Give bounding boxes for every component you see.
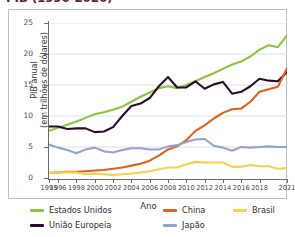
legend-swatch-icon bbox=[163, 209, 177, 212]
y-axis-label: PIB anual (em trilhões de dólares) bbox=[30, 5, 50, 155]
legend-label: União Europeia bbox=[49, 220, 111, 230]
x-tick-label: 2004 bbox=[123, 184, 140, 192]
x-tick-mark bbox=[95, 180, 96, 183]
x-tick-label: 2008 bbox=[160, 184, 177, 192]
line-chart-svg bbox=[49, 23, 287, 178]
legend-label: Brasil bbox=[252, 205, 275, 215]
chart-page: PIB (1990-2020) PIB anual (em trilhões d… bbox=[0, 0, 295, 237]
x-tick-mark bbox=[260, 180, 261, 183]
series-line bbox=[49, 139, 287, 153]
legend-swatch-icon bbox=[233, 209, 247, 212]
x-tick-mark bbox=[113, 180, 114, 183]
x-tick-label: 1996 bbox=[50, 184, 67, 192]
y-tick-mark bbox=[44, 85, 48, 86]
x-tick-label: 2002 bbox=[105, 184, 122, 192]
x-tick-label: 2010 bbox=[178, 184, 195, 192]
legend-item: Brasil bbox=[233, 205, 275, 215]
series-line bbox=[49, 35, 287, 130]
series-line bbox=[49, 162, 287, 175]
x-tick-mark bbox=[186, 180, 187, 183]
chart-frame: PIB anual (em trilhões de dólares) 05101… bbox=[8, 9, 287, 199]
y-tick-mark bbox=[44, 54, 48, 55]
x-tick-mark bbox=[287, 180, 288, 183]
x-tick-label: 2000 bbox=[86, 184, 103, 192]
x-tick-label: 2014 bbox=[215, 184, 232, 192]
x-tick-mark bbox=[223, 180, 224, 183]
legend-label: Estados Unidos bbox=[49, 205, 112, 215]
y-tick-mark bbox=[44, 178, 48, 179]
x-tick-label: 2016 bbox=[233, 184, 250, 192]
x-tick-mark bbox=[76, 180, 77, 183]
legend-item: União Europeia bbox=[30, 220, 111, 230]
x-tick-mark bbox=[49, 180, 50, 183]
legend-item: China bbox=[163, 205, 205, 215]
legend-swatch-icon bbox=[30, 224, 44, 227]
plot-area bbox=[49, 23, 287, 178]
y-tick-label: 5 bbox=[11, 142, 33, 151]
x-tick-label: 2018 bbox=[251, 184, 268, 192]
x-tick-mark bbox=[150, 180, 151, 183]
legend-label: China bbox=[182, 205, 205, 215]
x-tick-mark bbox=[241, 180, 242, 183]
x-tick-label: 2012 bbox=[196, 184, 213, 192]
y-tick-label: 20 bbox=[11, 49, 33, 58]
y-tick-label: 25 bbox=[11, 18, 33, 27]
legend-swatch-icon bbox=[30, 209, 44, 212]
x-tick-mark bbox=[58, 180, 59, 183]
legend-item: Estados Unidos bbox=[30, 205, 112, 215]
x-tick-label: 1998 bbox=[68, 184, 85, 192]
x-tick-mark bbox=[131, 180, 132, 183]
x-tick-mark bbox=[168, 180, 169, 183]
x-tick-mark bbox=[205, 180, 206, 183]
legend-item: Japão bbox=[163, 220, 205, 230]
page-title: PIB (1990-2020) bbox=[6, 0, 112, 5]
y-tick-mark bbox=[44, 23, 48, 24]
y-tick-mark bbox=[44, 147, 48, 148]
y-tick-label: 10 bbox=[11, 111, 33, 120]
y-tick-label: 0 bbox=[11, 173, 33, 182]
x-tick-label: 2006 bbox=[141, 184, 158, 192]
y-tick-label: 15 bbox=[11, 80, 33, 89]
chart-legend: Estados UnidosChinaBrasilUnião EuropeiaJ… bbox=[8, 205, 287, 235]
series-line bbox=[49, 68, 287, 173]
y-tick-mark bbox=[44, 116, 48, 117]
legend-swatch-icon bbox=[163, 224, 177, 227]
x-tick-label: 2021 bbox=[279, 184, 295, 192]
legend-label: Japão bbox=[182, 220, 205, 230]
